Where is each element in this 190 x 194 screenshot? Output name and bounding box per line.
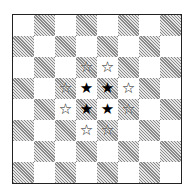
filled-star-icon[interactable]: ★ — [80, 102, 93, 117]
board-square-r2-c7[interactable] — [160, 57, 181, 78]
board-square-r4-c2[interactable]: ☆ — [55, 99, 76, 120]
filled-star-icon[interactable]: ★ — [101, 102, 114, 117]
board-square-r2-c6[interactable] — [139, 57, 160, 78]
board-square-r2-c0[interactable] — [13, 57, 34, 78]
board-square-r1-c0[interactable] — [13, 36, 34, 57]
board-square-r6-c6[interactable] — [139, 141, 160, 162]
board-square-r7-c5[interactable] — [118, 162, 139, 183]
board-square-r0-c0[interactable] — [13, 15, 34, 36]
board-square-r1-c6[interactable] — [139, 36, 160, 57]
board-square-r7-c7[interactable] — [160, 162, 181, 183]
board-square-r4-c0[interactable] — [13, 99, 34, 120]
board-square-r6-c3[interactable] — [76, 141, 97, 162]
board-square-r5-c2[interactable] — [55, 120, 76, 141]
hollow-star-icon[interactable]: ☆ — [101, 60, 114, 75]
board-square-r0-c4[interactable] — [97, 15, 118, 36]
board-square-r3-c6[interactable] — [139, 78, 160, 99]
board-square-r5-c4[interactable]: ☆ — [97, 120, 118, 141]
board-square-r3-c3[interactable]: ★ — [76, 78, 97, 99]
board-square-r0-c5[interactable] — [118, 15, 139, 36]
board-square-r1-c2[interactable] — [55, 36, 76, 57]
board-square-r0-c7[interactable] — [160, 15, 181, 36]
board-square-r0-c2[interactable] — [55, 15, 76, 36]
board-square-r7-c3[interactable] — [76, 162, 97, 183]
board-square-r2-c3[interactable]: ☆ — [76, 57, 97, 78]
board-square-r1-c3[interactable] — [76, 36, 97, 57]
board-square-r7-c0[interactable] — [13, 162, 34, 183]
board-square-r5-c5[interactable] — [118, 120, 139, 141]
board-square-r0-c3[interactable] — [76, 15, 97, 36]
board-square-r6-c5[interactable] — [118, 141, 139, 162]
board-square-r3-c2[interactable]: ☆ — [55, 78, 76, 99]
board-square-r4-c4[interactable]: ★ — [97, 99, 118, 120]
board-square-r3-c4[interactable]: ★ — [97, 78, 118, 99]
hollow-star-icon[interactable]: ☆ — [122, 81, 135, 96]
board-square-r5-c1[interactable] — [34, 120, 55, 141]
board-square-r6-c0[interactable] — [13, 141, 34, 162]
board-square-r4-c7[interactable] — [160, 99, 181, 120]
hollow-star-icon[interactable]: ☆ — [80, 123, 93, 138]
board-square-r5-c3[interactable]: ☆ — [76, 120, 97, 141]
board-square-r2-c5[interactable] — [118, 57, 139, 78]
board-square-r1-c4[interactable] — [97, 36, 118, 57]
hollow-star-icon[interactable]: ☆ — [122, 102, 135, 117]
hollow-star-icon[interactable]: ☆ — [101, 123, 114, 138]
board-square-r6-c1[interactable] — [34, 141, 55, 162]
hollow-star-icon[interactable]: ☆ — [59, 102, 72, 117]
board-square-r1-c5[interactable] — [118, 36, 139, 57]
filled-star-icon[interactable]: ★ — [80, 81, 93, 96]
hollow-star-icon[interactable]: ☆ — [59, 81, 72, 96]
chessboard: ☆☆☆★★☆☆★★☆☆☆ — [12, 14, 182, 184]
board-square-r5-c7[interactable] — [160, 120, 181, 141]
board-square-r5-c0[interactable] — [13, 120, 34, 141]
board-square-r3-c0[interactable] — [13, 78, 34, 99]
board-square-r4-c5[interactable]: ☆ — [118, 99, 139, 120]
board-square-r0-c1[interactable] — [34, 15, 55, 36]
board-square-r0-c6[interactable] — [139, 15, 160, 36]
board-square-r3-c7[interactable] — [160, 78, 181, 99]
board-square-r6-c4[interactable] — [97, 141, 118, 162]
board-square-r3-c5[interactable]: ☆ — [118, 78, 139, 99]
board-square-r3-c1[interactable] — [34, 78, 55, 99]
board-square-r4-c3[interactable]: ★ — [76, 99, 97, 120]
board-square-r7-c2[interactable] — [55, 162, 76, 183]
board-square-r7-c1[interactable] — [34, 162, 55, 183]
board-square-r2-c2[interactable] — [55, 57, 76, 78]
board-square-r6-c2[interactable] — [55, 141, 76, 162]
hollow-star-icon[interactable]: ☆ — [80, 60, 93, 75]
board-square-r4-c6[interactable] — [139, 99, 160, 120]
board-square-r7-c6[interactable] — [139, 162, 160, 183]
board-square-r4-c1[interactable] — [34, 99, 55, 120]
board-square-r2-c1[interactable] — [34, 57, 55, 78]
board-square-r1-c7[interactable] — [160, 36, 181, 57]
filled-star-icon[interactable]: ★ — [101, 81, 114, 96]
board-square-r1-c1[interactable] — [34, 36, 55, 57]
board-square-r7-c4[interactable] — [97, 162, 118, 183]
board-square-r5-c6[interactable] — [139, 120, 160, 141]
board-square-r6-c7[interactable] — [160, 141, 181, 162]
board-square-r2-c4[interactable]: ☆ — [97, 57, 118, 78]
